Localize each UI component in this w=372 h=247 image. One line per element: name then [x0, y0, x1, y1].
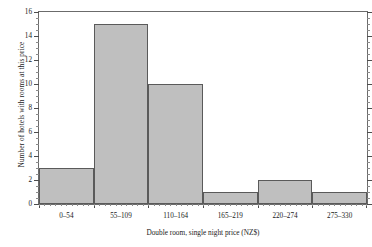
- x-axis-minor-tick: [83, 204, 84, 206]
- x-axis-minor-tick: [258, 204, 259, 206]
- y-axis-minor-tick-right: [367, 24, 370, 25]
- y-axis-minor-tick: [36, 198, 39, 199]
- x-axis-minor-tick: [165, 204, 166, 206]
- x-axis-minor-tick: [39, 204, 40, 206]
- x-axis-minor-tick: [88, 204, 89, 206]
- y-axis-tick-label: 12: [25, 56, 32, 64]
- x-axis-minor-tick: [66, 204, 67, 206]
- x-axis-minor-tick: [55, 204, 56, 206]
- histogram-bar: [148, 84, 203, 204]
- y-axis-minor-tick-right: [367, 30, 370, 31]
- y-axis-minor-tick-right: [367, 72, 370, 73]
- x-axis-minor-tick: [143, 204, 144, 206]
- x-axis-minor-tick: [99, 204, 100, 206]
- y-axis-minor-tick: [36, 144, 39, 145]
- x-axis-minor-tick: [225, 204, 226, 206]
- x-axis-minor-tick: [280, 204, 281, 206]
- x-axis-tick-label: 165–219: [218, 212, 243, 220]
- y-axis-tick-label: 0: [28, 200, 32, 208]
- histogram-bar: [258, 180, 313, 204]
- x-axis-tick-label: 275–330: [327, 212, 352, 220]
- y-axis-minor-tick-right: [367, 48, 370, 49]
- y-axis-minor-tick: [36, 168, 39, 169]
- y-axis-tick: [34, 108, 39, 109]
- x-axis-minor-tick: [116, 204, 117, 206]
- x-axis-minor-tick: [356, 204, 357, 206]
- x-axis-minor-tick: [72, 204, 73, 206]
- x-axis-minor-tick: [50, 204, 51, 206]
- x-axis-minor-tick: [121, 204, 122, 206]
- y-axis-minor-tick: [36, 24, 39, 25]
- histogram-bar: [203, 192, 258, 204]
- y-axis-tick-label: 16: [25, 8, 32, 16]
- x-axis-minor-tick: [236, 204, 237, 206]
- x-axis-minor-tick: [307, 204, 308, 206]
- y-axis-minor-tick-right: [367, 186, 370, 187]
- y-axis-tick-right: [367, 180, 372, 181]
- y-axis-tick-right: [367, 60, 372, 61]
- y-axis-tick-label: 10: [25, 80, 32, 88]
- x-axis-minor-tick: [285, 204, 286, 206]
- x-axis-tick-label: 220–274: [272, 212, 297, 220]
- x-axis-minor-tick: [252, 204, 253, 206]
- y-axis-tick-right: [367, 84, 372, 85]
- y-axis-minor-tick-right: [367, 192, 370, 193]
- y-axis-tick: [34, 180, 39, 181]
- y-axis-tick-label: 4: [28, 152, 32, 160]
- x-axis-minor-tick: [230, 204, 231, 206]
- histogram-bar: [94, 24, 149, 204]
- x-axis-minor-tick: [323, 204, 324, 206]
- x-axis-minor-tick: [137, 204, 138, 206]
- y-axis-minor-tick-right: [367, 78, 370, 79]
- y-axis-tick-right: [367, 12, 372, 13]
- x-axis-minor-tick: [219, 204, 220, 206]
- x-axis-minor-tick: [263, 204, 264, 206]
- x-axis-minor-tick: [154, 204, 155, 206]
- x-axis-minor-tick: [132, 204, 133, 206]
- y-axis-minor-tick: [36, 96, 39, 97]
- y-axis-minor-tick-right: [367, 42, 370, 43]
- y-axis-minor-tick-right: [367, 174, 370, 175]
- y-axis-minor-tick: [36, 120, 39, 121]
- y-axis-minor-tick: [36, 150, 39, 151]
- y-axis-minor-tick: [36, 30, 39, 31]
- x-axis-minor-tick: [176, 204, 177, 206]
- x-axis-minor-tick: [290, 204, 291, 206]
- y-axis-minor-tick-right: [367, 66, 370, 67]
- y-axis-minor-tick-right: [367, 96, 370, 97]
- y-axis-minor-tick-right: [367, 162, 370, 163]
- y-axis-tick: [34, 12, 39, 13]
- x-axis-minor-tick: [208, 204, 209, 206]
- y-axis-minor-tick-right: [367, 54, 370, 55]
- y-axis-tick: [34, 156, 39, 157]
- x-axis-minor-tick: [312, 204, 313, 206]
- y-axis-minor-tick: [36, 42, 39, 43]
- y-axis-minor-tick: [36, 78, 39, 79]
- y-axis-minor-tick-right: [367, 150, 370, 151]
- x-axis-minor-tick: [181, 204, 182, 206]
- y-axis-minor-tick-right: [367, 138, 370, 139]
- y-axis-minor-tick: [36, 18, 39, 19]
- x-axis-minor-tick: [61, 204, 62, 206]
- x-axis-minor-tick: [77, 204, 78, 206]
- x-axis-tick-label: 55–109: [110, 212, 132, 220]
- x-axis-minor-tick: [170, 204, 171, 206]
- x-axis-minor-tick: [329, 204, 330, 206]
- y-axis-tick-right: [367, 36, 372, 37]
- y-axis-tick-right: [367, 108, 372, 109]
- y-axis-tick-right: [367, 132, 372, 133]
- y-axis-minor-tick: [36, 162, 39, 163]
- y-axis-tick: [34, 60, 39, 61]
- y-axis-tick: [34, 84, 39, 85]
- y-axis-minor-tick-right: [367, 90, 370, 91]
- x-axis-minor-tick: [192, 204, 193, 206]
- y-axis-minor-tick: [36, 90, 39, 91]
- x-axis-minor-tick: [269, 204, 270, 206]
- x-axis-minor-tick: [301, 204, 302, 206]
- y-axis-tick-label: 6: [28, 128, 32, 136]
- y-axis-minor-tick: [36, 126, 39, 127]
- y-axis-minor-tick: [36, 54, 39, 55]
- y-axis-minor-tick: [36, 66, 39, 67]
- y-axis-tick-right: [367, 156, 372, 157]
- y-axis-minor-tick: [36, 186, 39, 187]
